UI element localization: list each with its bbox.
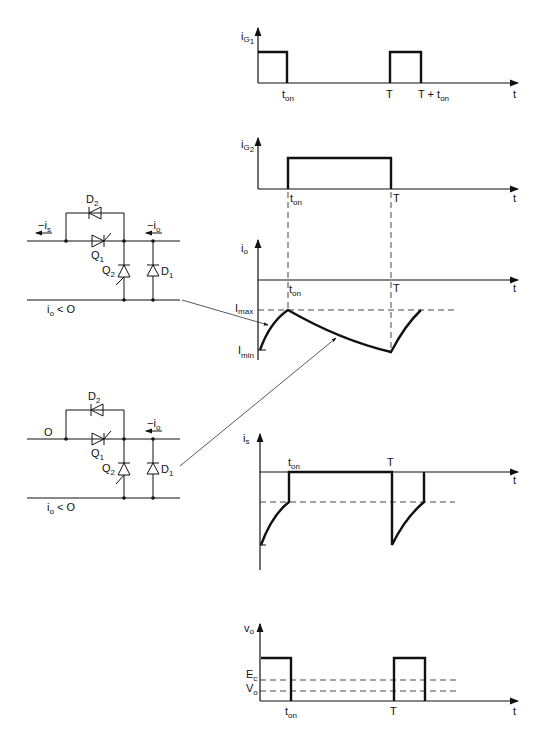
c1-q2-label: Q2 (102, 264, 116, 279)
plot-is: is ton T t (243, 432, 518, 570)
ig2-pulse (288, 158, 391, 189)
io-ylabel: io (241, 242, 248, 256)
is-tick-ton: ton (288, 456, 300, 471)
c1-d1-label: D1 (161, 265, 174, 280)
io-imin-label: Imin (238, 344, 254, 360)
c2-diode-d1 (147, 463, 159, 474)
is-xlabel: t (513, 474, 516, 486)
c2-thyristor-q1 (92, 431, 111, 445)
ig1-pulse-2 (390, 52, 421, 83)
c1-thyristor-q1 (92, 233, 111, 247)
vo-tick-ton: ton (285, 705, 297, 720)
plot-ig1: iG1 ton T T + ton t (241, 28, 518, 103)
ig1-tick-ton: ton (282, 88, 294, 103)
is-tick-T: T (387, 456, 394, 468)
vo-xlabel: t (513, 705, 516, 717)
c1-d2-label: D2 (86, 193, 99, 208)
c2-d1-label: D1 (161, 463, 174, 478)
io-xlabel: t (513, 282, 516, 294)
ig2-tick-ton: ton (290, 192, 302, 207)
c1-thyristor-q2 (116, 265, 130, 285)
ig1-tick-T: T (386, 88, 393, 100)
io-tick-T: T (393, 282, 400, 294)
vo-vo-label: Vo (246, 682, 258, 697)
io-waveform (260, 310, 421, 352)
ig1-ylabel: iG1 (241, 30, 255, 46)
pointer-circuit1-to-rise (182, 300, 268, 325)
vo-pulse-2 (394, 658, 425, 701)
plot-vo: vo Ec Vo ton T t (244, 622, 518, 720)
c2-condition-label: io < O (47, 501, 75, 516)
ig2-xlabel: t (513, 192, 516, 204)
c1-is-label: −is (38, 219, 51, 234)
plot-io: io ton T t Imax Imin (235, 240, 518, 360)
c2-thyristor-q2 (116, 463, 130, 484)
c1-q1-label: Q1 (91, 249, 105, 264)
plot-ig2: iG2 ton T t (241, 138, 518, 207)
vo-ec-label: Ec (246, 668, 257, 683)
is-ylabel: is (243, 432, 249, 446)
is-waveform (261, 472, 424, 545)
ig2-ylabel: iG2 (241, 138, 255, 154)
ig1-tick-T-plus-ton: T + ton (418, 88, 449, 103)
io-imax-label: Imax (235, 302, 253, 316)
c1-diode-d1 (147, 265, 159, 276)
vo-tick-T: T (390, 705, 397, 717)
c1-io-label: −io (147, 219, 161, 234)
circuit-bottom: D2 Q1 Q2 D1 O −io io < O (27, 390, 180, 516)
ig2-tick-T: T (393, 192, 400, 204)
c2-io-label: −io (147, 417, 161, 432)
vo-pulse-1 (261, 658, 291, 701)
c1-condition-label: io < O (47, 303, 75, 318)
c2-zero-label: O (44, 426, 53, 438)
c2-d2-label: D2 (88, 390, 101, 405)
c2-q2-label: Q2 (102, 462, 116, 477)
diagram-canvas: iG1 ton T T + ton t iG2 ton T t io ton T… (0, 0, 544, 729)
circuit-top: D2 Q1 Q2 D1 −is −io io < O (27, 193, 180, 318)
io-tick-ton: ton (289, 283, 301, 298)
c2-q1-label: Q1 (91, 447, 105, 462)
vo-ylabel: vo (244, 622, 255, 636)
ig1-pulse-1 (258, 52, 287, 83)
ig1-xlabel: t (513, 88, 516, 100)
